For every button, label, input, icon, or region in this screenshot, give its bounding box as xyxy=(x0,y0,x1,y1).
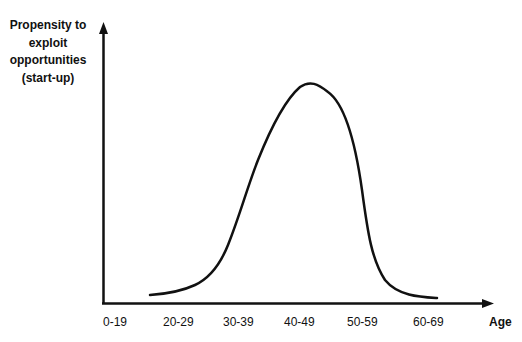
x-tick-40-49: 40-49 xyxy=(284,315,315,329)
x-axis-label: Age xyxy=(489,315,512,329)
x-axis-arrow-icon xyxy=(482,299,494,308)
chart-canvas xyxy=(0,0,522,342)
x-tick-50-59: 50-59 xyxy=(347,315,378,329)
x-tick-60-69: 60-69 xyxy=(413,315,444,329)
x-tick-20-29: 20-29 xyxy=(163,315,194,329)
x-tick-0-19: 0-19 xyxy=(103,315,127,329)
propensity-curve xyxy=(150,83,437,298)
x-tick-30-39: 30-39 xyxy=(223,315,254,329)
y-axis-arrow-icon xyxy=(99,22,108,34)
